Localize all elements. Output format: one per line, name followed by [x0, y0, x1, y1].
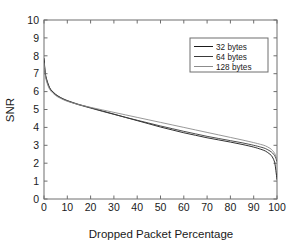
y-tick-label: 5 — [33, 103, 39, 115]
chart-legend: 32 bytes64 bytes128 bytes — [190, 38, 268, 72]
y-tick-label: 8 — [33, 50, 39, 62]
x-tick-label: 30 — [108, 201, 120, 213]
x-tick-label: 20 — [85, 201, 97, 213]
y-tick-label: 2 — [33, 157, 39, 169]
x-tick-label: 10 — [61, 201, 73, 213]
x-tick-label: 40 — [131, 201, 143, 213]
x-tick-label: 70 — [201, 201, 213, 213]
y-tick-label: 7 — [33, 67, 39, 79]
x-tick-label: 100 — [268, 201, 286, 213]
figure-container: 0102030405060708090100 012345678910 Drop… — [0, 0, 300, 247]
x-tick-label: 60 — [178, 201, 190, 213]
y-tick-label: 4 — [33, 121, 39, 133]
legend-label-2: 128 bytes — [216, 63, 252, 72]
snr-line-chart: 0102030405060708090100 012345678910 Drop… — [0, 0, 300, 247]
y-tick-label: 3 — [33, 139, 39, 151]
x-tick-label: 50 — [155, 201, 167, 213]
y-axis-title: SNR — [4, 98, 16, 122]
y-tick-label: 9 — [33, 32, 39, 44]
x-tick-label: 90 — [248, 201, 260, 213]
legend-label-0: 32 bytes — [216, 43, 247, 52]
x-tick-label: 80 — [225, 201, 237, 213]
y-tick-label: 10 — [27, 14, 39, 26]
legend-label-1: 64 bytes — [216, 53, 247, 62]
x-tick-label: 0 — [41, 201, 47, 213]
y-tick-label: 0 — [33, 193, 39, 205]
y-tick-label: 6 — [33, 85, 39, 97]
x-axis-title: Dropped Packet Percentage — [89, 228, 233, 240]
y-tick-label: 1 — [33, 175, 39, 187]
